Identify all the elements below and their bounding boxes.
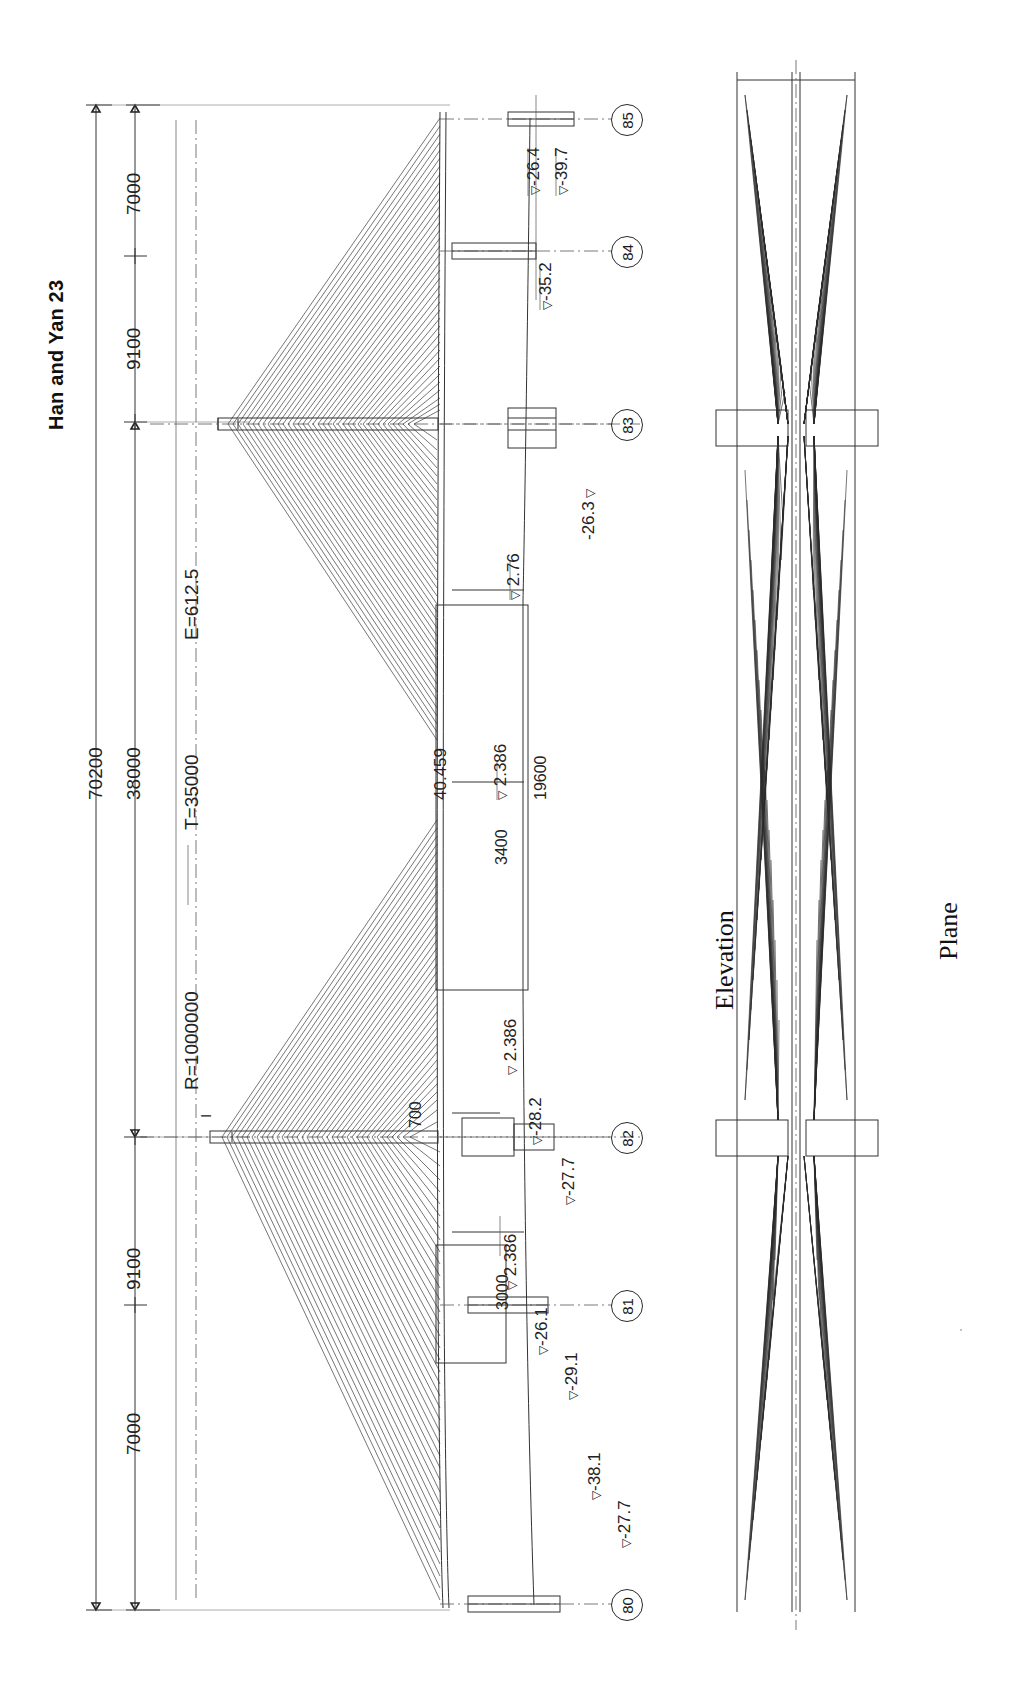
dimension-panel-width: 19600 (533, 756, 549, 801)
page-title: Han and Yan 23 (46, 280, 66, 430)
view-label-plane: Plane (936, 902, 962, 960)
elevation-node-81-a: ▽-26.1 (533, 1307, 550, 1355)
drawing-sheet: .l { stroke:#333; stroke-width:1; fill:n… (0, 0, 1027, 1686)
elevation-node-85-a: ▽-26.4 (525, 147, 542, 195)
elevation-node-80-b: ▽-27.7 (616, 1500, 633, 1548)
curve-tangent-label: T=35000 (182, 754, 201, 830)
node-bubble-85[interactable]: 85 (611, 104, 643, 136)
elevation-node-80-a: ▽-38.1 (586, 1452, 603, 1500)
pylon-mark: I (198, 1114, 213, 1118)
curve-radius-label: R=1000000 (182, 991, 201, 1090)
dimension-main-span: 38000 (124, 747, 143, 800)
elevation-node-84: ▽-35.2 (537, 262, 554, 310)
node-bubble-81[interactable]: 81 (611, 1290, 643, 1322)
dimension-pylon-width: 700 (408, 1101, 424, 1128)
view-label-elevation: Elevation (712, 910, 738, 1010)
dimension-girder-depth-right: 3400 (494, 829, 510, 865)
elevation-node-82-b: ▽-27.7 (560, 1157, 577, 1205)
node-bubble-84[interactable]: 84 (611, 236, 643, 268)
elevation-node-83: -26.3 ▽ (580, 489, 597, 540)
dimension-segment-1: 7000 (124, 173, 143, 215)
elevation-node-81-b: ▽-29.1 (563, 1352, 580, 1400)
node-bubble-82[interactable]: 82 (611, 1122, 643, 1154)
curve-external-label: E=612.5 (182, 569, 201, 640)
dimension-segment-3: 9100 (124, 1248, 143, 1290)
dimension-segment-4: 7000 (124, 1413, 143, 1455)
elevation-deck-4: ▽ 2.76 (505, 553, 522, 600)
drawing-linework: .l { stroke:#333; stroke-width:1; fill:n… (0, 0, 1027, 1686)
dimension-overall: 70200 (86, 747, 105, 800)
elevation-deck-1: ▽ 2.386 (502, 1234, 519, 1290)
dimension-segment-2: 9100 (124, 328, 143, 370)
node-bubble-80[interactable]: 80 (611, 1589, 643, 1621)
elevation-node-85-b: ▽-39.7 (553, 147, 570, 195)
node-bubble-83[interactable]: 83 (611, 409, 643, 441)
elevation-pylon-top: 40.459 (432, 748, 449, 800)
elevation-deck-3: ▽ 2.386 (492, 744, 509, 800)
elevation-deck-2: ▽ 2.386 (502, 1019, 519, 1075)
elevation-node-82-a: ▽-28.2 (527, 1097, 544, 1145)
